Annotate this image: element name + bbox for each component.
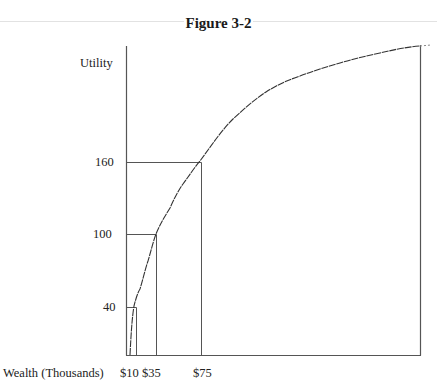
y-tick-label-40: 40 (103, 300, 116, 314)
x-axis-label: Wealth (Thousands) (3, 366, 104, 380)
y-tick-label-160: 160 (95, 155, 114, 169)
y-axis-label: Utility (80, 56, 113, 70)
reference-box-75-160 (127, 163, 202, 356)
utility-curve (130, 46, 420, 355)
utility-curve-tail (420, 45, 431, 46)
x-tick-label-35: $35 (142, 366, 161, 380)
x-tick-label-75: $75 (193, 366, 212, 380)
chart-plot-area (0, 0, 437, 391)
reference-box-10-40 (127, 308, 137, 356)
x-tick-label-10: $10 (120, 366, 139, 380)
y-tick-label-100: 100 (93, 227, 112, 241)
